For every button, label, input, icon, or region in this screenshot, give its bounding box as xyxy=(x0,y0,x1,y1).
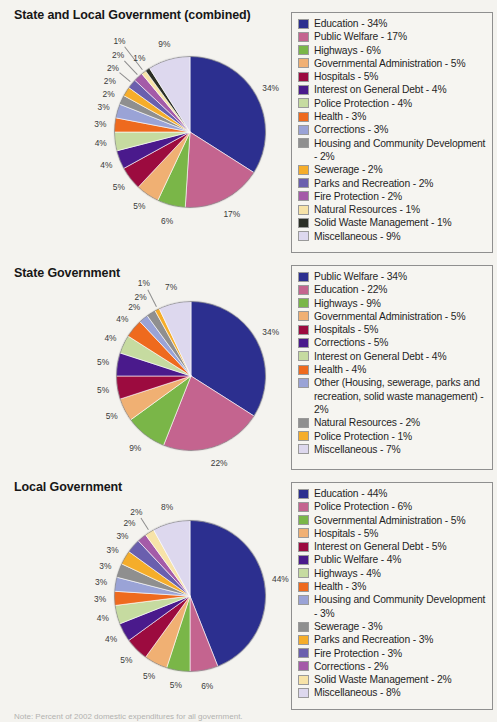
legend-item[interactable]: Other (Housing, sewerage, parks and recr… xyxy=(298,376,487,416)
legend-item-label: Corrections - 2% xyxy=(314,660,388,673)
pie-graphic xyxy=(116,301,266,451)
legend-swatch-icon xyxy=(298,635,309,645)
legend-item[interactable]: Housing and Community Development - 3% xyxy=(298,593,487,620)
legend-swatch-icon xyxy=(298,489,309,499)
pie-slice-percent-label: 3% xyxy=(116,531,128,541)
legend-swatch-icon xyxy=(298,542,309,552)
legend-item[interactable]: Education - 34% xyxy=(298,17,487,30)
legend-swatch-icon xyxy=(298,338,309,348)
legend-item[interactable]: Highways - 9% xyxy=(298,297,487,310)
legend-item-label: Education - 22% xyxy=(314,283,387,296)
legend-item[interactable]: Sewerage - 3% xyxy=(298,620,487,633)
pie-slice-percent-label: 1% xyxy=(133,53,145,63)
legend-item[interactable]: Natural Resources - 2% xyxy=(298,416,487,429)
legend-item[interactable]: Health - 3% xyxy=(298,110,487,123)
pie-slice-percent-label: 7% xyxy=(165,282,177,292)
legend-item[interactable]: Corrections - 5% xyxy=(298,336,487,349)
legend-item[interactable]: Miscellaneous - 8% xyxy=(298,686,487,699)
legend-item[interactable]: Governmental Administration - 5% xyxy=(298,310,487,323)
legend-item[interactable]: Fire Protection - 3% xyxy=(298,647,487,660)
pie-graphic xyxy=(114,520,266,672)
chart-panel-state-and-local-combined: State and Local Government (combined) 34… xyxy=(0,0,497,258)
legend-item[interactable]: Highways - 6% xyxy=(298,44,487,57)
pie-slice-percent-label: 2% xyxy=(112,50,124,60)
legend-item[interactable]: Solid Waste Management - 1% xyxy=(298,216,487,229)
legend-item[interactable]: Miscellaneous - 9% xyxy=(298,230,487,243)
legend-item-label: Police Protection - 1% xyxy=(314,430,412,443)
pie-graphic xyxy=(114,56,266,208)
legend-item[interactable]: Health - 4% xyxy=(298,363,487,376)
pie-slice-percent-label: 3% xyxy=(98,102,110,112)
legend-swatch-icon xyxy=(298,418,309,428)
legend-item[interactable]: Solid Waste Management - 2% xyxy=(298,673,487,686)
legend-item[interactable]: Corrections - 3% xyxy=(298,123,487,136)
legend-item[interactable]: Police Protection - 4% xyxy=(298,97,487,110)
legend-swatch-icon xyxy=(298,595,309,605)
legend-swatch-icon xyxy=(298,218,309,228)
legend-item[interactable]: Interest on General Debt - 5% xyxy=(298,540,487,553)
page-title-state: State Government xyxy=(14,266,120,280)
legend-item[interactable]: Hospitals - 5% xyxy=(298,323,487,336)
legend-swatch-icon xyxy=(298,568,309,578)
legend-item[interactable]: Health - 3% xyxy=(298,580,487,593)
legend-swatch-icon xyxy=(298,85,309,95)
legend-swatch-icon xyxy=(298,502,309,512)
legend-swatch-icon xyxy=(298,285,309,295)
pie-chart-combined: 34%17%6%5%5%4%4%3%3%2%2%2%2%1%1%9% xyxy=(94,32,284,247)
legend-swatch-icon xyxy=(298,431,309,441)
legend-item[interactable]: Highways - 4% xyxy=(298,567,487,580)
legend-item-label: Hospitals - 5% xyxy=(314,70,378,83)
legend-item[interactable]: Miscellaneous - 7% xyxy=(298,443,487,456)
legend-item[interactable]: Sewerage - 2% xyxy=(298,163,487,176)
label-leader-line xyxy=(124,61,138,76)
legend-item-label: Health - 3% xyxy=(314,580,366,593)
legend-item[interactable]: Police Protection - 6% xyxy=(298,500,487,513)
legend-item-label: Fire Protection - 2% xyxy=(314,190,402,203)
legend-item[interactable]: Fire Protection - 2% xyxy=(298,190,487,203)
legend-item[interactable]: Public Welfare - 4% xyxy=(298,553,487,566)
legend-item[interactable]: Hospitals - 5% xyxy=(298,70,487,83)
pie-chart-local: 44%6%5%5%5%4%4%3%3%3%3%3%2%2%8% xyxy=(94,496,284,701)
legend-item[interactable]: Governmental Administration - 5% xyxy=(298,514,487,527)
legend-item-label: Governmental Administration - 5% xyxy=(314,57,465,70)
legend-swatch-icon xyxy=(298,178,309,188)
legend-item[interactable]: Education - 22% xyxy=(298,283,487,296)
legend-item-label: Police Protection - 4% xyxy=(314,97,412,110)
legend-item[interactable]: Interest on General Debt - 4% xyxy=(298,350,487,363)
pie-slice-percent-label: 22% xyxy=(211,458,228,468)
legend-state: Public Welfare - 34%Education - 22%Highw… xyxy=(291,265,493,470)
legend-swatch-icon xyxy=(298,19,309,29)
legend-item-label: Highways - 9% xyxy=(314,297,381,310)
pie-slice-percent-label: 5% xyxy=(113,182,125,192)
legend-item[interactable]: Parks and Recreation - 3% xyxy=(298,633,487,646)
legend-item-label: Health - 3% xyxy=(314,110,366,123)
legend-item-label: Hospitals - 5% xyxy=(314,527,378,540)
pie-slice-percent-label: 4% xyxy=(105,634,117,644)
legend-swatch-icon xyxy=(298,365,309,375)
legend-item[interactable]: Interest on General Debt - 4% xyxy=(298,83,487,96)
legend-item[interactable]: Parks and Recreation - 2% xyxy=(298,177,487,190)
legend-swatch-icon xyxy=(298,32,309,42)
page-title-combined: State and Local Government (combined) xyxy=(14,8,251,22)
legend-item-label: Corrections - 3% xyxy=(314,123,388,136)
legend-item-label: Housing and Community Development - 3% xyxy=(314,593,487,620)
pie-slice-percent-label: 5% xyxy=(133,201,145,211)
legend-item[interactable]: Corrections - 2% xyxy=(298,660,487,673)
legend-item[interactable]: Hospitals - 5% xyxy=(298,527,487,540)
legend-item-label: Education - 44% xyxy=(314,487,387,500)
legend-item[interactable]: Police Protection - 1% xyxy=(298,430,487,443)
pie-slice-percent-label: 17% xyxy=(223,209,240,219)
legend-item[interactable]: Education - 44% xyxy=(298,487,487,500)
legend-item-label: Sewerage - 2% xyxy=(314,163,382,176)
legend-item-label: Highways - 4% xyxy=(314,567,381,580)
pie-slice-percent-label: 5% xyxy=(170,680,182,690)
legend-item[interactable]: Natural Resources - 1% xyxy=(298,203,487,216)
legend-item-label: Governmental Administration - 5% xyxy=(314,310,465,323)
legend-item-label: Parks and Recreation - 3% xyxy=(314,633,433,646)
legend-item[interactable]: Public Welfare - 34% xyxy=(298,270,487,283)
pie-slice-percent-label: 4% xyxy=(95,138,107,148)
pie-slice-percent-label: 1% xyxy=(138,278,150,288)
legend-item[interactable]: Governmental Administration - 5% xyxy=(298,57,487,70)
legend-item[interactable]: Housing and Community Development - 2% xyxy=(298,137,487,164)
legend-item[interactable]: Public Welfare - 17% xyxy=(298,30,487,43)
